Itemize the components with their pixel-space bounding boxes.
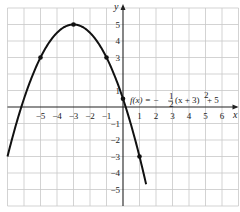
x-tick-label: −5 — [36, 111, 46, 121]
eq-tail: + 5 — [207, 95, 219, 105]
x-tick-label: −2 — [85, 111, 95, 121]
function-label: f(x) = − 1 2 (x + 3) 2 + 5 — [130, 90, 219, 109]
y-tick-label: −4 — [110, 168, 120, 178]
y-tick-label: −2 — [110, 135, 120, 145]
x-tick-label: 5 — [203, 111, 208, 121]
x-tick-label: 1 — [137, 111, 142, 121]
y-tick-label: −1 — [110, 119, 120, 129]
data-point — [71, 22, 76, 27]
y-tick-label: −5 — [110, 185, 120, 195]
data-point — [121, 96, 126, 101]
data-point — [137, 154, 142, 159]
x-tick-label: −4 — [52, 111, 62, 121]
parabola-curve — [8, 25, 147, 185]
data-point — [38, 55, 43, 60]
eq-lhs: f(x) = − — [130, 95, 159, 105]
x-tick-label: 4 — [187, 111, 192, 121]
y-tick-label: 5 — [116, 20, 121, 30]
x-tick-label: 2 — [154, 111, 159, 121]
x-axis-label: x — [232, 109, 238, 120]
eq-rest: (x + 3) — [175, 95, 200, 105]
y-tick-label: −3 — [110, 152, 120, 162]
y-axis-arrow-icon — [121, 4, 126, 10]
y-tick-label: 4 — [116, 36, 121, 46]
svg-text:f(x) = −: f(x) = − — [130, 95, 159, 105]
x-tick-label: 6 — [220, 111, 225, 121]
y-tick-label: 3 — [116, 53, 121, 63]
x-tick-label: 3 — [170, 111, 175, 121]
y-axis-label: y — [113, 1, 119, 12]
x-tick-label: −3 — [69, 111, 79, 121]
data-point — [104, 55, 109, 60]
eq-frac-den: 2 — [169, 99, 174, 109]
axes — [8, 4, 239, 206]
parabola-graph: −5−4−3−2−11234565431−1−2−3−4−5 y x f(x) … — [0, 0, 240, 212]
